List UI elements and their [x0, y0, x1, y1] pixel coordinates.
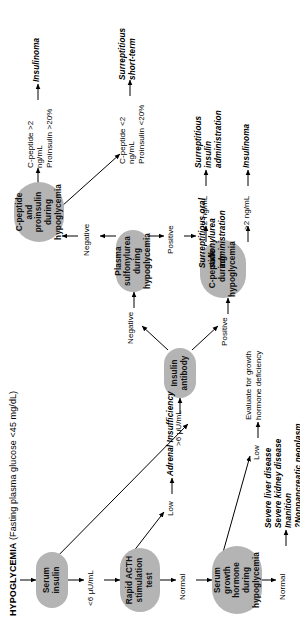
outcome-surreptitious-short-term: Surreptitious short-term [118, 6, 138, 80]
node-serum-insulin[interactable]: Serum insulin [36, 552, 68, 608]
edge-label-antibody-positive: Positive [220, 317, 229, 346]
figure-title-main: HYPOGLYCEMIA [8, 543, 18, 616]
figure-title-sub: (Fasting plasma glucose <45 mg/dL) [8, 391, 18, 543]
rotated-figure-wrapper: HYPOGLYCEMIA (Fasting plasma glucose <45… [0, 0, 300, 620]
outcome-surreptitious-insulin-administration: Surreptitious insulin administration [194, 94, 224, 168]
outcome-systemic-causes: Severe liver disease Severe kidney disea… [264, 418, 300, 528]
edge-label-proinsulin-low: C-peptide <2 ng/mL Proinsulin <20% [118, 94, 146, 164]
edge-label-acth-normal: Normal [178, 574, 187, 600]
node-plasma-sulfonylurea[interactable]: Plasma sulfonylurea during hypoglycemia [116, 230, 150, 292]
node-c-peptide-and-proinsulin[interactable]: C-peptide and proinsulin during hypoglyc… [14, 182, 64, 242]
edge-label-sulfonylurea-positive: Positive [166, 225, 175, 254]
outcome-surreptitious-oral-sulfonylurea: Surreptitious oral sulfonylurea administ… [198, 192, 228, 268]
flowchart-edges [0, 0, 300, 620]
outcome-adrenal-insufficiency: Adrenal Insufficiency [166, 386, 176, 476]
flowchart-canvas: HYPOGLYCEMIA (Fasting plasma glucose <45… [0, 0, 300, 620]
node-rapid-acth-stimulation-test[interactable]: Rapid ACTH stimulation test [120, 548, 160, 612]
edge-label-antibody-negative: Negative [126, 312, 135, 344]
edge-label-gh-normal: Normal [278, 574, 287, 600]
outcome-evaluate-growth-hormone-deficiency: Evaluate for growth hormone deficiency [244, 348, 263, 420]
outcome-insulinoma-proinsulin: Insulinoma [32, 20, 42, 82]
edge-label-proinsulin-high: C-peptide >2 ng/mL Proinsulin >20% [26, 98, 54, 168]
edge-label-insulin-low: <6 µU/mL [86, 570, 95, 606]
edge-label-gh-low: Low [252, 445, 261, 460]
outcome-insulinoma-cpeptide: Insulinoma [242, 108, 252, 168]
node-serum-growth-hormone[interactable]: Serum growth hormone during hypoglycemia [212, 546, 262, 614]
edge-label-sulfonylurea-negative: Negative [82, 224, 91, 256]
edge-label-acth-low: Low [166, 501, 175, 516]
edge-label-cpeptide-high: >2 ng/mL [242, 196, 251, 230]
figure-title: HYPOGLYCEMIA (Fasting plasma glucose <45… [8, 391, 18, 616]
